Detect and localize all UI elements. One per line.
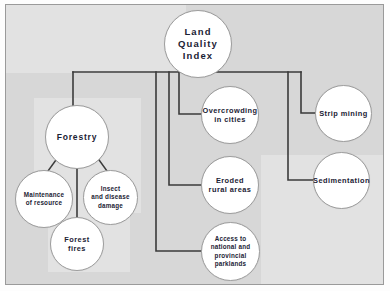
- node-label-line: provincial: [208, 252, 253, 260]
- node-label-line: rural areas: [206, 185, 255, 194]
- node-label-line: Insect: [88, 185, 132, 193]
- edge-root-eroded: [169, 72, 202, 185]
- diagram-canvas: Land Quality Index Forestry Overcrowding…: [5, 4, 384, 285]
- node-label-line: Strip mining: [316, 109, 371, 118]
- node-strip-mining[interactable]: Strip mining: [315, 85, 372, 142]
- node-label-line: Access to: [208, 235, 253, 243]
- node-label-line: national and: [208, 243, 253, 251]
- edge-root-strip-mining: [301, 72, 316, 113]
- node-overcrowding-in-cities[interactable]: Overcrowding in cities: [201, 86, 259, 144]
- node-label-line: and disease: [88, 193, 132, 201]
- node-label-line: Eroded: [206, 176, 255, 185]
- node-label-line: in cities: [199, 115, 260, 124]
- node-label-line: Sedimentation: [310, 176, 373, 185]
- node-label-line: Overcrowding: [199, 106, 260, 115]
- node-forest-fires[interactable]: Forest fires: [50, 217, 104, 271]
- node-label-line: parklands: [208, 260, 253, 268]
- node-label-line: Index: [175, 50, 221, 62]
- node-label-line: Forest: [61, 235, 92, 244]
- node-label-line: fires: [61, 244, 92, 253]
- node-sedimentation[interactable]: Sedimentation: [313, 152, 370, 209]
- node-label-line: of resource: [21, 199, 67, 207]
- node-label-line: damage: [88, 202, 132, 210]
- node-label-line: Land: [175, 26, 221, 38]
- diagram-screenshot: Land Quality Index Forestry Overcrowding…: [0, 0, 390, 291]
- node-label-line: Maintenance: [21, 191, 67, 199]
- node-land-quality-index[interactable]: Land Quality Index: [164, 10, 232, 78]
- node-forestry[interactable]: Forestry: [45, 105, 109, 169]
- node-insect-and-disease-damage[interactable]: Insect and disease damage: [83, 170, 138, 225]
- node-label-line: Forestry: [54, 132, 100, 143]
- node-eroded-rural-areas[interactable]: Eroded rural areas: [201, 156, 259, 214]
- node-access-to-parklands[interactable]: Access to national and provincial parkla…: [201, 222, 260, 281]
- node-label-line: Quality: [175, 38, 221, 50]
